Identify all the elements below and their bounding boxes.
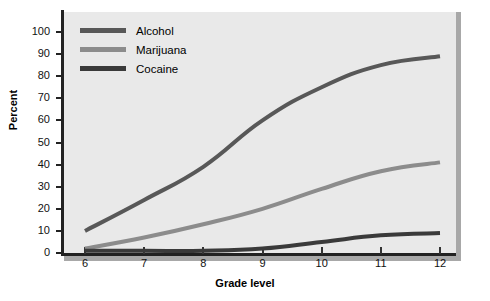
x-axis-title: Grade level (0, 277, 490, 289)
y-tick-mark (56, 252, 62, 254)
y-tick-mark (56, 53, 62, 55)
x-tick-mark (202, 247, 204, 254)
y-tick-label: 40 (16, 159, 50, 170)
legend-item-cocaine[interactable]: Cocaine (80, 59, 187, 78)
legend-label: Marijuana (136, 44, 187, 56)
y-axis-title: Percent (7, 75, 19, 145)
y-tick-mark (56, 142, 62, 144)
y-tick-mark (56, 119, 62, 121)
y-tick-label: 90 (16, 48, 50, 59)
line-chart: 0102030405060708090100 6789101112 Alcoho… (0, 0, 490, 301)
y-tick-label: 70 (16, 92, 50, 103)
x-axis-line (61, 253, 456, 256)
x-tick-label: 8 (190, 258, 216, 269)
y-tick-label: 80 (16, 70, 50, 81)
x-tick-label: 9 (250, 258, 276, 269)
x-tick-mark (143, 247, 145, 254)
y-tick-label: 50 (16, 137, 50, 148)
y-tick-mark (56, 97, 62, 99)
y-tick-label: 0 (16, 247, 50, 258)
legend-label: Cocaine (136, 63, 178, 75)
y-tick-mark (56, 186, 62, 188)
x-tick-mark (439, 247, 441, 254)
x-tick-mark (84, 247, 86, 254)
legend-item-marijuana[interactable]: Marijuana (80, 40, 187, 59)
x-tick-mark (380, 247, 382, 254)
x-tick-mark (262, 247, 264, 254)
legend-label: Alcohol (136, 25, 174, 37)
y-tick-mark (56, 164, 62, 166)
x-tick-label: 6 (72, 258, 98, 269)
x-tick-label: 7 (131, 258, 157, 269)
x-tick-label: 10 (309, 258, 335, 269)
y-tick-label: 100 (16, 26, 50, 37)
chart-legend: AlcoholMarijuanaCocaine (80, 21, 187, 78)
y-axis-line (61, 10, 64, 256)
y-tick-mark (56, 208, 62, 210)
legend-swatch-marijuana (80, 47, 126, 52)
x-tick-mark (321, 247, 323, 254)
legend-swatch-cocaine (80, 66, 126, 71)
y-tick-mark (56, 31, 62, 33)
y-tick-label: 60 (16, 114, 50, 125)
x-tick-label: 12 (427, 258, 453, 269)
y-tick-mark (56, 75, 62, 77)
legend-item-alcohol[interactable]: Alcohol (80, 21, 187, 40)
y-tick-mark (56, 230, 62, 232)
legend-swatch-alcohol (80, 28, 126, 33)
plot-frame-shadow-right (456, 12, 461, 261)
y-tick-label: 10 (16, 225, 50, 236)
y-tick-label: 30 (16, 181, 50, 192)
x-tick-label: 11 (368, 258, 394, 269)
y-tick-label: 20 (16, 203, 50, 214)
